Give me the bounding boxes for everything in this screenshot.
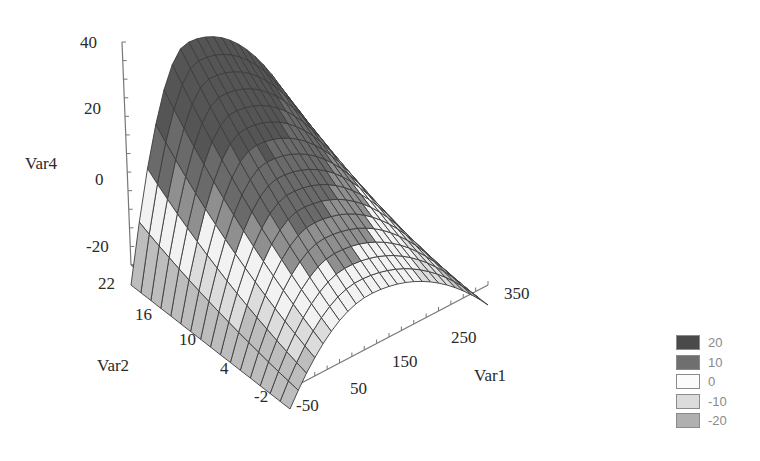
z-tick-40: 40	[80, 34, 97, 51]
y-axis-title: Var2	[97, 357, 129, 374]
legend-swatch	[676, 413, 700, 428]
surface-mesh	[131, 37, 488, 409]
y-tick-minus2: -2	[254, 388, 268, 405]
legend-swatch	[676, 335, 700, 350]
x-tick-250: 250	[451, 329, 477, 346]
y-tick-10: 10	[179, 331, 196, 348]
x-tick-minus50: -50	[296, 397, 319, 414]
legend: 20 10 0 -10 -20	[676, 333, 727, 431]
legend-item-20: 20	[676, 333, 727, 353]
legend-item-0: 0	[676, 372, 727, 392]
surface-plot	[0, 0, 760, 461]
legend-label: 20	[708, 335, 722, 350]
y-tick-4: 4	[220, 360, 229, 377]
x-tick-150: 150	[392, 353, 418, 370]
legend-label: -20	[708, 413, 727, 428]
legend-item-minus20: -20	[676, 411, 727, 431]
x-tick-350: 350	[504, 285, 530, 302]
z-axis-title: Var4	[25, 155, 57, 172]
x-tick-50: 50	[350, 380, 367, 397]
legend-swatch	[676, 374, 700, 389]
y-tick-16: 16	[135, 306, 152, 323]
legend-label: 0	[708, 374, 715, 389]
z-tick-0: 0	[95, 171, 104, 188]
legend-swatch	[676, 394, 700, 409]
legend-label: 10	[708, 355, 722, 370]
legend-item-minus10: -10	[676, 392, 727, 412]
y-tick-22: 22	[98, 275, 115, 292]
legend-swatch	[676, 355, 700, 370]
legend-item-10: 10	[676, 353, 727, 373]
z-tick-minus20: -20	[86, 238, 109, 255]
x-axis-title: Var1	[474, 367, 506, 384]
z-tick-20: 20	[84, 100, 101, 117]
legend-label: -10	[708, 394, 727, 409]
